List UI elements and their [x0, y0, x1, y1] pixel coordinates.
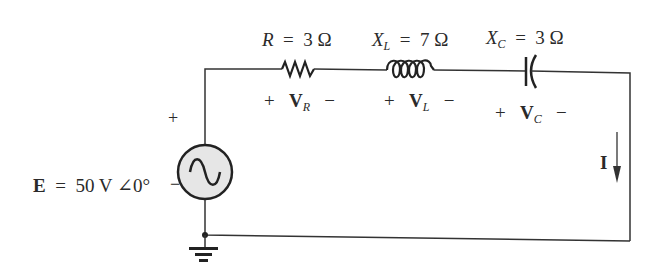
inductor-value: 7 Ω	[420, 29, 448, 50]
source-minus: −	[170, 175, 180, 193]
capacitor-voltage-label: + VC −	[495, 103, 567, 125]
resistor-symbol	[282, 62, 314, 76]
source-plus: +	[168, 109, 178, 127]
capacitor-voltage-plus: +	[495, 102, 506, 123]
inductor-equals: =	[400, 29, 411, 50]
source-angle-symbol: ∠	[117, 175, 133, 196]
capacitor-voltage-sub: C	[534, 112, 542, 126]
resistor-voltage-label: + VR −	[264, 91, 335, 113]
wire-bottom	[205, 199, 630, 241]
inductor-voltage-minus: −	[444, 90, 455, 111]
inductor-symbol-text: X	[372, 29, 384, 50]
source-magnitude: 50 V	[75, 175, 112, 196]
resistor-voltage-symbol: V	[289, 90, 303, 111]
inductor-symbol	[387, 60, 434, 77]
inductor-voltage-plus: +	[384, 90, 395, 111]
current-label: I	[600, 153, 607, 172]
source-equals: =	[55, 175, 66, 196]
resistor-symbol-text: R	[262, 29, 274, 50]
inductor-voltage-symbol: V	[409, 90, 423, 111]
inductor-voltage-label: + VL −	[384, 91, 454, 113]
source-symbol: E	[33, 175, 46, 196]
wire-top-right	[531, 71, 630, 241]
resistor-voltage-plus: +	[264, 90, 275, 111]
resistor-equals: =	[283, 29, 294, 50]
ground-icon-bar3	[199, 259, 208, 262]
wire-l-to-c	[434, 70, 526, 71]
capacitor-label: XC = 3 Ω	[486, 28, 564, 50]
capacitor-voltage-minus: −	[556, 102, 567, 123]
resistor-voltage-sub: R	[303, 100, 310, 114]
source-label: E = 50 V ∠0°	[33, 176, 150, 195]
resistor-label: R = 3 Ω	[262, 30, 332, 49]
ground-icon-bar1	[189, 247, 218, 250]
resistor-voltage-minus: −	[324, 90, 335, 111]
capacitor-equals: =	[515, 27, 526, 48]
source-angle: 0°	[133, 175, 150, 196]
resistor-value: 3 Ω	[303, 29, 331, 50]
current-arrow-head	[613, 166, 621, 183]
wire-r-to-l	[314, 69, 387, 70]
inductor-label: XL = 7 Ω	[372, 30, 448, 52]
capacitor-symbol-text: X	[486, 27, 498, 48]
inductor-symbol-sub: L	[384, 39, 391, 53]
capacitor-voltage-symbol: V	[520, 102, 534, 123]
capacitor-value: 3 Ω	[535, 27, 563, 48]
ground-icon-bar2	[195, 253, 212, 256]
capacitor-symbol-sub: C	[498, 37, 506, 51]
